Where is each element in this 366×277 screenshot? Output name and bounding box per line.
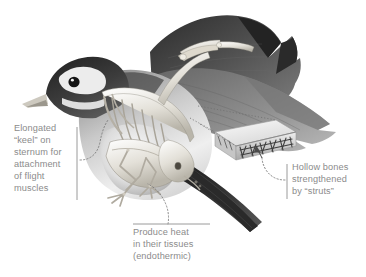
annotation-label-struts: Hollow bones strengthened by “struts” <box>292 161 366 197</box>
head <box>22 57 129 119</box>
annotation-label-keel: Elongated “keel” on sternum for attachme… <box>14 122 76 194</box>
annotation-label-heat: Produce heat in their tissues (endotherm… <box>133 226 213 262</box>
